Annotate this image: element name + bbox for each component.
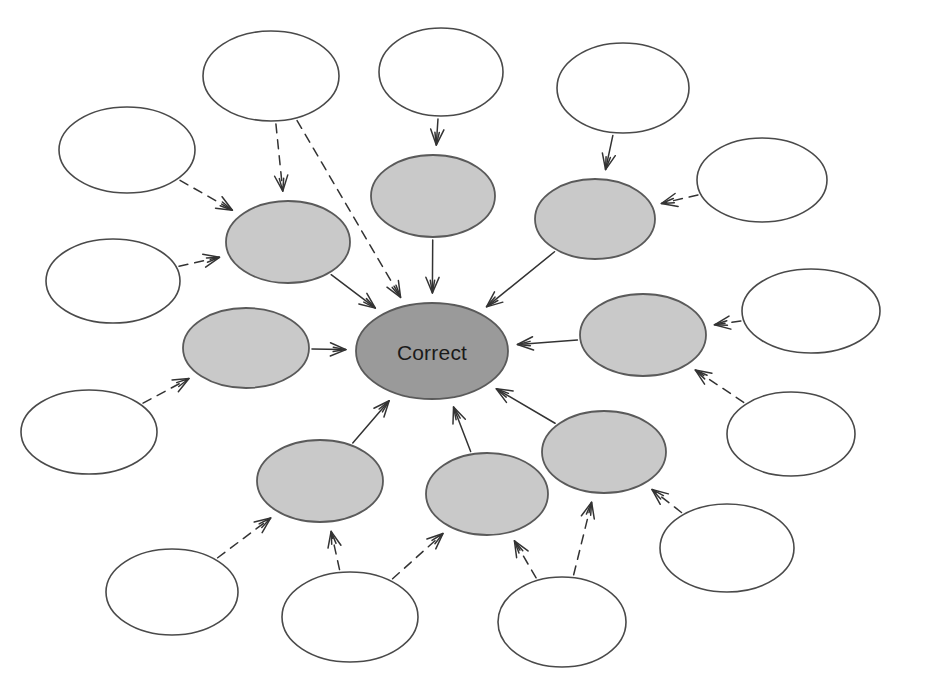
outer-node-ellipse[interactable]: [106, 549, 238, 635]
edge-solid: [517, 337, 577, 350]
edge-dashed: [180, 180, 232, 210]
inner-node-ellipse[interactable]: [257, 440, 383, 522]
edge-solid: [602, 135, 615, 169]
edge-dashed: [143, 378, 189, 403]
edge-dashed: [661, 193, 698, 206]
edge-dashed: [275, 124, 288, 191]
edge-dashed: [328, 531, 341, 569]
outer-node-ellipse[interactable]: [379, 28, 503, 116]
inner-node-ellipse[interactable]: [226, 201, 350, 283]
outer-node-ellipse[interactable]: [557, 43, 689, 133]
outer-node-ellipse[interactable]: [498, 577, 626, 667]
outer-node-ellipse[interactable]: [660, 504, 794, 592]
outer-node-ellipse[interactable]: [727, 392, 855, 476]
edge-solid: [487, 252, 555, 307]
edge-dashed: [574, 502, 595, 575]
edge-dashed: [652, 489, 682, 512]
node-label: Correct: [397, 341, 467, 364]
edge-dashed: [714, 316, 740, 329]
edge-solid: [426, 240, 439, 293]
inner-node-ellipse[interactable]: [535, 179, 655, 259]
outer-node-ellipse[interactable]: [742, 269, 880, 353]
inner-node-ellipse[interactable]: [371, 155, 495, 237]
inner-node-ellipse[interactable]: [542, 411, 666, 493]
edge-dashed: [514, 541, 536, 578]
diagram-canvas: Correct: [0, 0, 925, 688]
edge-dashed: [695, 370, 743, 402]
edge-solid: [431, 119, 444, 145]
inner-node-ellipse[interactable]: [426, 453, 548, 535]
center-node-ellipse[interactable]: Correct: [356, 303, 508, 399]
outer-node-ellipse[interactable]: [282, 572, 418, 662]
edge-solid: [496, 389, 555, 424]
edge-dashed: [179, 254, 219, 267]
edge-dashed: [218, 518, 271, 558]
outer-node-ellipse[interactable]: [203, 31, 339, 121]
edge-solid: [353, 401, 389, 443]
outer-node-ellipse[interactable]: [697, 138, 827, 222]
outer-node-ellipse[interactable]: [46, 239, 180, 323]
concept-map-svg: Correct: [0, 0, 925, 688]
edge-solid: [312, 343, 346, 356]
edge-solid: [453, 407, 471, 452]
outer-node-ellipse[interactable]: [21, 390, 157, 474]
inner-node-ellipse[interactable]: [183, 308, 309, 388]
edge-solid: [331, 275, 375, 308]
edge-dashed: [393, 534, 443, 579]
inner-node-ellipse[interactable]: [580, 294, 706, 376]
outer-node-ellipse[interactable]: [59, 107, 195, 193]
center-node-layer: Correct: [356, 303, 508, 399]
